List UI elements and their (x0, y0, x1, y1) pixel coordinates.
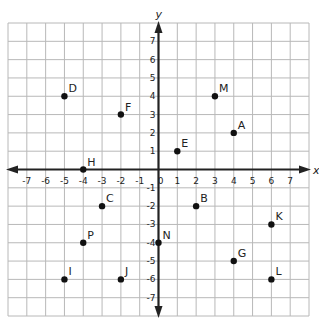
y-tick-label: -5 (147, 256, 156, 266)
point-label-m: M (219, 82, 229, 95)
x-tick-label: 4 (231, 176, 237, 186)
x-tick-label: -4 (79, 176, 88, 186)
point-label-n: N (163, 229, 171, 242)
point-label-i: I (68, 265, 71, 278)
y-tick-label: -4 (147, 238, 156, 248)
y-tick-label: -3 (147, 219, 156, 229)
x-tick-label: 7 (287, 176, 293, 186)
y-tick-label: 1 (150, 146, 156, 156)
point-label-j: J (124, 265, 128, 278)
point-label-p: P (87, 229, 94, 242)
x-tick-label: 2 (193, 176, 199, 186)
point-k (268, 221, 274, 227)
x-tick-label: -2 (116, 176, 125, 186)
point-i (61, 276, 67, 282)
point-label-a: A (238, 119, 246, 132)
y-tick-label: 6 (150, 55, 156, 65)
point-label-f: F (125, 101, 131, 114)
point-label-h: H (87, 156, 95, 169)
y-tick-label: -1 (147, 183, 156, 193)
point-j (118, 276, 124, 282)
y-tick-label: 4 (150, 91, 156, 101)
point-label-e: E (181, 137, 188, 150)
y-tick-label: -6 (147, 274, 156, 284)
x-tick-label: -6 (41, 176, 50, 186)
x-tick-label: -7 (22, 176, 31, 186)
x-tick-label: 5 (250, 176, 256, 186)
point-label-c: C (106, 192, 114, 205)
x-axis-label: x (312, 164, 319, 177)
x-tick-label: 3 (212, 176, 218, 186)
point-label-l: L (275, 265, 282, 278)
point-d (61, 93, 67, 99)
y-tick-label: 7 (150, 36, 156, 46)
y-axis-label: y (155, 8, 163, 21)
y-tick-label: 2 (150, 128, 156, 138)
point-b (193, 203, 199, 209)
point-label-d: D (68, 82, 76, 95)
y-tick-label: 3 (150, 110, 156, 120)
point-g (231, 258, 237, 264)
axes: xy (6, 8, 319, 318)
point-n (155, 240, 161, 246)
x-tick-label: 0 (158, 176, 164, 186)
y-tick-label: 5 (150, 73, 156, 83)
y-tick-label: -7 (147, 293, 156, 303)
point-l (268, 276, 274, 282)
x-tick-label: 6 (269, 176, 275, 186)
point-label-k: K (275, 210, 283, 223)
point-c (99, 203, 105, 209)
x-tick-label: -1 (135, 176, 144, 186)
point-a (231, 130, 237, 136)
point-f (118, 111, 124, 117)
point-h (80, 166, 86, 172)
point-p (80, 240, 86, 246)
point-label-g: G (238, 247, 247, 260)
y-tick-label: -2 (147, 201, 156, 211)
point-e (174, 148, 180, 154)
x-tick-label: -5 (60, 176, 69, 186)
coordinate-plane: xy -7-6-5-4-3-2-101234567-7-6-5-4-3-2-11… (0, 0, 319, 327)
point-label-b: B (200, 192, 208, 205)
x-tick-label: -3 (98, 176, 107, 186)
x-tick-label: 1 (174, 176, 180, 186)
point-m (212, 93, 218, 99)
